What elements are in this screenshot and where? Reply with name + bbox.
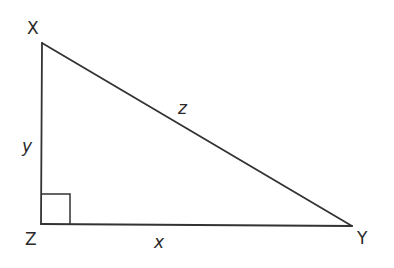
- side-label-x: x: [153, 232, 165, 252]
- side-xz: [41, 43, 42, 224]
- vertex-label-x: X: [27, 18, 39, 38]
- vertex-label-z: Z: [25, 229, 37, 249]
- triangle-sides: [41, 43, 352, 226]
- side-xy-hypotenuse: [42, 43, 352, 226]
- side-label-y: y: [21, 136, 33, 156]
- right-triangle-diagram: X Z Y y x z: [0, 0, 394, 268]
- vertex-label-y: Y: [356, 228, 368, 248]
- side-label-z: z: [177, 98, 188, 118]
- right-angle-marker: [41, 194, 70, 224]
- side-zy: [41, 224, 352, 226]
